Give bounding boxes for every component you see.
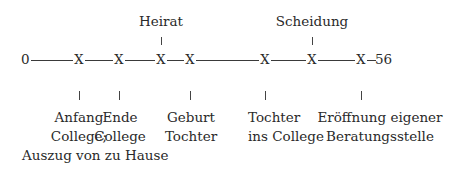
event-label-scheidung: Scheidung	[276, 12, 348, 31]
timeline-end-label: 56	[375, 50, 392, 69]
event-tick-ende	[119, 91, 120, 100]
timeline-marker: X	[356, 53, 365, 67]
event-label-line: Geburt	[165, 108, 217, 127]
timeline-marker: X	[260, 53, 269, 67]
timeline-line-segment	[31, 60, 73, 61]
event-label-anfang-line3: Auszug von zu Hause	[22, 146, 168, 165]
event-label-eroeffnung: Eröffnung eigener Beratungsstelle	[317, 108, 442, 146]
event-tick-heirat	[161, 37, 162, 45]
timeline-line-segment	[196, 60, 259, 61]
timeline-line-segment	[318, 60, 355, 61]
timeline-start-label: 0	[21, 50, 30, 69]
event-label-line: Eröffnung eigener	[317, 108, 442, 127]
event-label-line: Tochter	[248, 108, 324, 127]
event-tick-geburt	[190, 91, 191, 100]
event-label-ende: Ende College	[94, 108, 146, 146]
event-tick-anfang	[79, 91, 80, 100]
timeline-line-segment	[271, 60, 306, 61]
timeline-marker: X	[307, 53, 316, 67]
event-label-line: Tochter	[165, 127, 217, 146]
timeline-marker: X	[185, 53, 194, 67]
timeline-line-segment	[367, 60, 376, 61]
event-tick-tochter-college	[265, 91, 266, 100]
event-tick-scheidung	[312, 37, 313, 45]
event-label-line: Beratungsstelle	[317, 127, 442, 146]
timeline-line-segment	[85, 60, 113, 61]
timeline-marker: X	[74, 53, 83, 67]
event-label-line: College	[94, 127, 146, 146]
event-label-geburt: Geburt Tochter	[165, 108, 217, 146]
event-label-heirat: Heirat	[139, 12, 183, 31]
event-label-line: Ende	[94, 108, 146, 127]
timeline-line-segment	[125, 60, 155, 61]
timeline-line-segment	[167, 60, 184, 61]
timeline-marker: X	[156, 53, 165, 67]
event-label-line: ins College	[248, 127, 324, 146]
timeline-marker: X	[114, 53, 123, 67]
event-label-tochter-college: Tochter ins College	[248, 108, 324, 146]
event-tick-eroeffnung	[361, 91, 362, 100]
